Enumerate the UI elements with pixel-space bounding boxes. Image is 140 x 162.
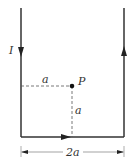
current-label: I [8, 44, 14, 57]
width-label: 2a [65, 146, 80, 159]
dimension-arrow-right-icon [117, 150, 124, 154]
point-label: P [77, 75, 86, 88]
point-p-dot [70, 84, 75, 89]
up-arrow-icon [121, 46, 127, 56]
dimension-arrow-left-icon [21, 150, 28, 154]
down-arrow-icon [18, 47, 24, 57]
right-arrow-icon [61, 134, 71, 140]
u-wire-diagram: I P a a 2a [0, 0, 140, 162]
horizontal-distance-label: a [42, 73, 49, 86]
vertical-distance-label: a [75, 104, 82, 117]
